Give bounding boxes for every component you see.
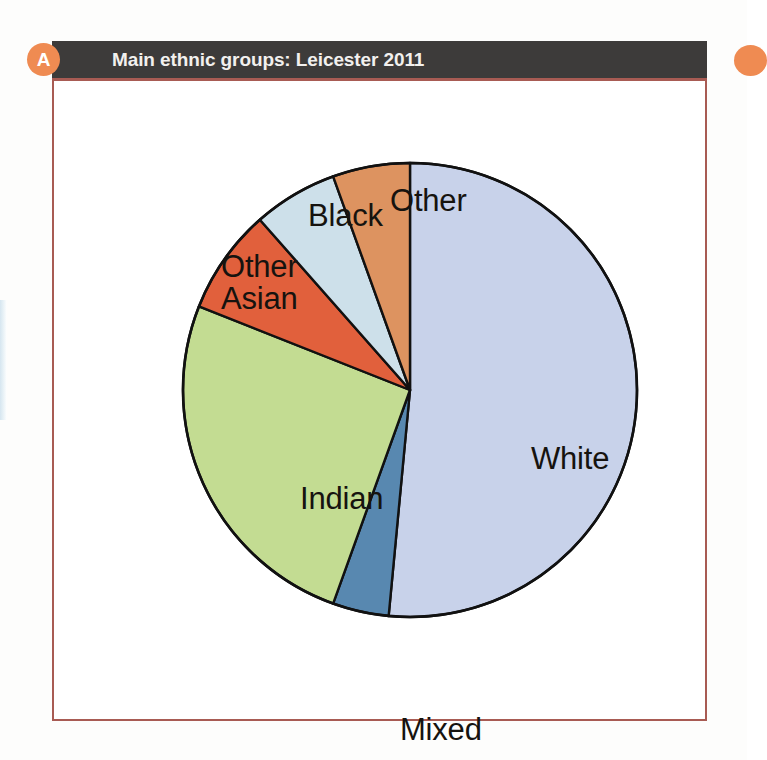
slice-label-other: Other: [390, 185, 467, 217]
pie-slice-group: [183, 163, 637, 617]
next-panel-letter-badge: [734, 45, 767, 76]
pie-chart-svg: [52, 78, 707, 721]
slice-label-indian: Indian: [300, 483, 383, 515]
panel-title: Main ethnic groups: Leicester 2011: [112, 41, 424, 78]
page-edge-bleed: [0, 300, 7, 420]
slice-label-black: Black: [308, 200, 383, 232]
panel-letter-badge: A: [27, 43, 60, 76]
slice-label-other-asian-line2: Asian: [221, 283, 298, 315]
slice-label-other-asian-line1: Other: [221, 251, 298, 283]
panel-header-bar: Main ethnic groups: Leicester 2011: [52, 41, 707, 78]
pie-slice-white: [389, 163, 637, 617]
slice-label-other-asian: Other Asian: [221, 251, 298, 314]
slice-label-mixed: Mixed: [400, 714, 482, 746]
pie-chart: White Indian Mixed Black Other Other Asi…: [52, 78, 707, 721]
slice-label-white: White: [531, 443, 609, 475]
